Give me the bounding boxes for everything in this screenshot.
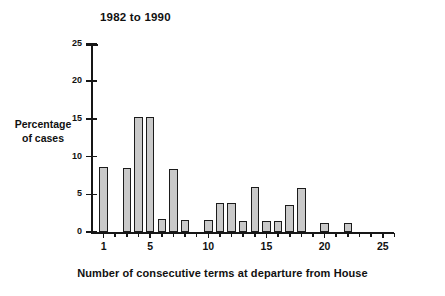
bar-term-15	[262, 221, 271, 232]
x-tick-label-5: 5	[138, 240, 162, 252]
bar-term-4	[134, 117, 143, 232]
x-tick-minor-16	[277, 233, 279, 237]
bar-term-3	[123, 168, 132, 232]
bar-term-10	[204, 220, 213, 232]
y-tick-15	[86, 118, 97, 120]
y-axis-top-cap	[86, 44, 98, 46]
x-tick-minor-13	[242, 233, 244, 237]
bar-term-13	[239, 221, 248, 232]
x-tick-minor-7	[173, 233, 175, 237]
x-tick-minor-11	[219, 233, 221, 237]
y-tick-10	[86, 156, 97, 158]
x-tick-label-1: 1	[92, 240, 116, 252]
x-tick-label-10: 10	[196, 240, 220, 252]
bar-term-11	[216, 203, 225, 232]
bar-term-17	[285, 205, 294, 232]
x-tick-5	[149, 233, 151, 238]
y-tick-5	[86, 194, 97, 196]
x-tick-minor-26	[394, 233, 396, 237]
x-tick-minor-17	[289, 233, 291, 237]
bar-term-7	[169, 169, 178, 232]
x-tick-minor-9	[196, 233, 198, 237]
x-tick-label-15: 15	[254, 240, 278, 252]
x-tick-minor-8	[184, 233, 186, 237]
bar-term-8	[181, 220, 190, 232]
y-tick-25	[86, 43, 97, 45]
x-tick-minor-12	[231, 233, 233, 237]
x-tick-15	[266, 233, 268, 238]
y-tick-label-5: 5	[58, 188, 82, 198]
x-tick-label-20: 20	[313, 240, 337, 252]
x-tick-minor-24	[370, 233, 372, 237]
x-tick-minor-23	[359, 233, 361, 237]
x-tick-20	[324, 233, 326, 238]
bar-term-6	[158, 219, 167, 232]
y-tick-20	[86, 80, 97, 82]
x-tick-minor-19	[312, 233, 314, 237]
bar-term-12	[227, 203, 236, 232]
y-tick-label-25: 25	[58, 38, 82, 48]
y-axis-line	[91, 44, 93, 234]
bar-chart-figure: 1982 to 1990 Percentage of cases Number …	[0, 0, 445, 296]
bar-term-5	[146, 117, 155, 232]
bar-term-22	[344, 223, 353, 232]
x-tick-25	[382, 233, 384, 238]
x-tick-label-25: 25	[371, 240, 395, 252]
x-tick-minor-3	[126, 233, 128, 237]
x-tick-minor-18	[301, 233, 303, 237]
x-tick-10	[208, 233, 210, 238]
x-tick-minor-6	[161, 233, 163, 237]
x-tick-minor-2	[114, 233, 116, 237]
bar-term-1	[99, 167, 108, 232]
bar-term-20	[320, 223, 329, 232]
x-tick-minor-4	[138, 233, 140, 237]
y-tick-0	[86, 231, 97, 233]
x-tick-minor-14	[254, 233, 256, 237]
plot-area: 0510152025 1510152025	[0, 0, 445, 296]
y-tick-label-0: 0	[58, 226, 82, 236]
bar-term-14	[251, 187, 260, 232]
y-tick-label-15: 15	[58, 113, 82, 123]
x-tick-minor-22	[347, 233, 349, 237]
bar-term-16	[274, 221, 283, 232]
x-tick-1	[103, 233, 105, 238]
x-tick-minor-21	[335, 233, 337, 237]
y-tick-label-20: 20	[58, 75, 82, 85]
bar-term-18	[297, 188, 306, 232]
y-tick-label-10: 10	[58, 151, 82, 161]
